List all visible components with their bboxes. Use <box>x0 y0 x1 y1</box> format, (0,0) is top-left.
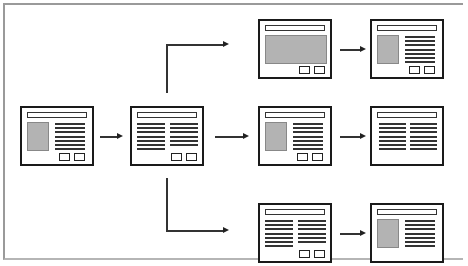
button-placeholder <box>299 250 310 258</box>
text-lines <box>293 123 323 152</box>
image-placeholder <box>265 35 327 64</box>
text-lines <box>55 123 85 152</box>
header-bar <box>265 25 325 31</box>
arrow-head-icon <box>243 133 249 139</box>
text-lines-right <box>170 123 198 148</box>
connector-a-b <box>100 136 117 138</box>
button-placeholder <box>409 66 420 74</box>
connector-c1-d1 <box>340 49 360 51</box>
wireframe-d1 <box>370 19 444 79</box>
button-placeholder <box>314 250 325 258</box>
header-bar <box>27 112 87 118</box>
text-lines-left <box>265 220 293 249</box>
button-placeholder <box>186 153 197 161</box>
connector-b-c1-vertical <box>166 44 168 93</box>
header-bar <box>377 209 437 215</box>
header-bar <box>265 209 325 215</box>
button-placeholder <box>59 153 70 161</box>
arrow-head-icon <box>223 227 229 233</box>
button-placeholder <box>74 153 85 161</box>
connector-b-c3-horizontal <box>166 230 223 232</box>
header-bar <box>377 112 437 118</box>
image-placeholder <box>265 122 287 151</box>
image-placeholder <box>377 35 399 64</box>
wireframe-a <box>20 106 94 166</box>
button-placeholder <box>424 66 435 74</box>
text-lines <box>405 36 435 65</box>
button-placeholder <box>312 153 323 161</box>
image-placeholder <box>377 219 399 248</box>
button-placeholder <box>299 66 310 74</box>
arrow-head-icon <box>360 133 366 139</box>
wireframe-b <box>130 106 204 166</box>
connector-b-c2 <box>215 136 243 138</box>
wireframe-c1 <box>258 19 332 79</box>
connector-b-c3-vertical <box>166 178 168 230</box>
connector-c3-d3 <box>340 233 360 235</box>
button-placeholder <box>171 153 182 161</box>
text-lines <box>405 220 435 249</box>
arrow-head-icon <box>223 41 229 47</box>
text-lines-right <box>410 123 437 152</box>
text-lines-left <box>379 123 406 152</box>
arrow-head-icon <box>360 46 366 52</box>
header-bar <box>265 112 325 118</box>
image-placeholder <box>27 122 49 151</box>
wireframe-d3 <box>370 203 444 263</box>
text-lines-right <box>298 220 326 245</box>
header-bar <box>377 25 437 31</box>
connector-b-c1-horizontal <box>166 44 223 46</box>
button-placeholder <box>297 153 308 161</box>
wireframe-c3 <box>258 203 332 263</box>
wireframe-d2 <box>370 106 444 166</box>
text-lines-left <box>137 123 165 152</box>
connector-c2-d2 <box>340 136 360 138</box>
wireframe-c2 <box>258 106 332 166</box>
button-placeholder <box>314 66 325 74</box>
arrow-head-icon <box>117 133 123 139</box>
arrow-head-icon <box>360 230 366 236</box>
header-bar <box>137 112 197 118</box>
